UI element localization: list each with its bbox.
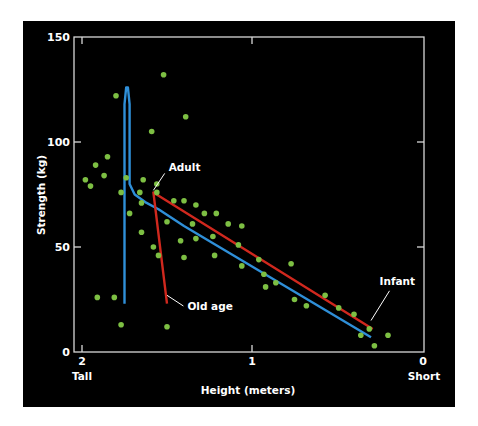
data-point xyxy=(351,311,357,317)
data-point xyxy=(202,211,208,217)
data-point xyxy=(149,129,155,135)
data-point xyxy=(367,326,373,332)
y-tick-label: 150 xyxy=(47,31,70,44)
data-point xyxy=(93,162,99,168)
data-point xyxy=(181,255,187,261)
x-axis-label: Height (meters) xyxy=(201,384,295,396)
x-tick-label: 0 xyxy=(419,355,427,368)
axis-ticks xyxy=(74,37,424,352)
data-point xyxy=(292,297,298,303)
data-point xyxy=(236,242,242,248)
data-point xyxy=(256,257,262,263)
data-point xyxy=(322,293,328,299)
data-point xyxy=(263,284,269,290)
annotation-old-age: Old age xyxy=(187,300,232,312)
data-point xyxy=(156,253,162,259)
data-point xyxy=(105,154,111,160)
chart-curves xyxy=(125,87,373,337)
annotation-pointer xyxy=(371,291,390,321)
x-tick-label: 1 xyxy=(248,355,256,368)
data-point xyxy=(183,114,189,120)
data-point xyxy=(225,221,231,227)
annotation-infant: Infant xyxy=(380,275,416,287)
data-point xyxy=(112,295,118,301)
axis-tick-labels: 050100150210 xyxy=(47,31,427,368)
data-point xyxy=(164,324,170,330)
data-point xyxy=(151,244,157,250)
data-point xyxy=(193,236,199,242)
annotation-adult: Adult xyxy=(169,161,201,173)
data-point xyxy=(261,272,267,278)
data-point xyxy=(171,198,177,204)
data-point xyxy=(88,183,94,189)
data-point xyxy=(358,332,364,338)
data-point xyxy=(210,234,216,240)
data-point xyxy=(127,211,133,217)
data-point xyxy=(118,190,124,196)
data-point xyxy=(239,223,245,229)
data-point xyxy=(140,177,146,183)
scatter-chart: 050100150210 AdultOld ageInfant Height (… xyxy=(0,0,478,426)
plot-frame xyxy=(74,37,424,352)
data-point xyxy=(101,173,107,179)
data-point xyxy=(336,305,342,311)
x-axis-left-end-label: Tall xyxy=(72,370,92,382)
data-point xyxy=(239,263,245,269)
data-point xyxy=(273,280,279,286)
data-point xyxy=(178,238,184,244)
blue-growth-curve xyxy=(125,87,372,337)
x-tick-label: 2 xyxy=(78,355,86,368)
x-axis-right-end-label: Short xyxy=(408,370,440,382)
data-point xyxy=(118,322,124,328)
annotation-pointer xyxy=(167,295,183,306)
data-point xyxy=(83,177,89,183)
data-point xyxy=(154,190,160,196)
data-point xyxy=(385,332,391,338)
data-point xyxy=(214,211,220,217)
data-point xyxy=(113,93,119,99)
y-tick-label: 100 xyxy=(47,136,70,149)
data-point xyxy=(123,175,129,181)
data-point xyxy=(181,198,187,204)
data-point xyxy=(139,230,145,236)
data-point xyxy=(193,202,199,208)
annotations: AdultOld ageInfant xyxy=(153,161,415,320)
data-point xyxy=(288,261,294,267)
data-point xyxy=(212,253,218,259)
data-point xyxy=(137,190,143,196)
y-tick-label: 50 xyxy=(55,241,71,254)
y-axis-label: Strength (kg) xyxy=(35,155,47,235)
data-point xyxy=(190,221,196,227)
data-point xyxy=(139,200,145,206)
data-point xyxy=(161,72,167,78)
data-point xyxy=(164,219,170,225)
data-point xyxy=(95,295,101,301)
data-point xyxy=(372,343,378,349)
data-point xyxy=(304,303,310,309)
y-tick-label: 0 xyxy=(62,346,70,359)
